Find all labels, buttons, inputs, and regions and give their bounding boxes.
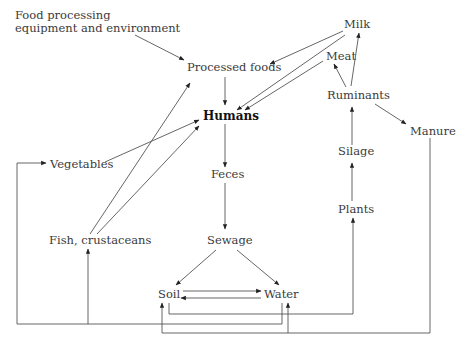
node-vegetables: Vegetables [50, 158, 113, 171]
edge-food-processing-to-processed [135, 35, 184, 60]
node-milk: Milk [344, 18, 370, 31]
node-feces: Feces [211, 168, 244, 181]
node-soil: Soil [158, 288, 180, 301]
node-ruminants: Ruminants [327, 89, 390, 102]
node-plants: Plants [338, 203, 374, 216]
node-food-processing-line2: equipment and environment [15, 22, 180, 35]
node-humans: Humans [203, 110, 259, 123]
node-fish-crustaceans: Fish, crustaceans [49, 234, 151, 247]
edge-soil-to-plants [169, 218, 353, 314]
node-sewage: Sewage [207, 234, 253, 247]
node-meat: Meat [326, 50, 356, 63]
node-processed-foods: Processed foods [187, 61, 281, 74]
node-silage: Silage [338, 145, 374, 158]
edge-ruminants-to-meat [334, 64, 346, 87]
edge-manure-to-soil [162, 138, 430, 333]
node-manure: Manure [410, 125, 456, 138]
food-contamination-diagram: Food processing equipment and environmen… [0, 0, 457, 342]
edge-fish-to-humans [97, 126, 199, 234]
node-water: Water [264, 288, 299, 301]
edge-sewage-to-water [237, 250, 279, 285]
edge-sewage-to-soil [176, 250, 216, 285]
edge-ruminants-to-manure [375, 104, 406, 124]
